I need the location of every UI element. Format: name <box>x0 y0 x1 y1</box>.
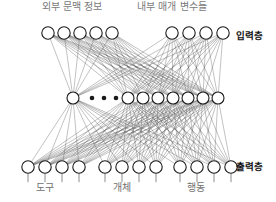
output-node-1 <box>39 161 51 173</box>
output-group-label-object: 개체 <box>113 182 131 193</box>
input-node-0 <box>42 27 54 39</box>
hidden-node-0 <box>67 92 79 104</box>
output-node-5 <box>116 161 128 173</box>
neural-network-diagram: 외부 문맥 정보 내부 매개 변수들 입력층 출력층 도구 개체 행동 <box>0 0 276 202</box>
input-node-3 <box>90 27 102 39</box>
hidden-node-4 <box>167 92 179 104</box>
group-label-external-context: 외부 문맥 정보 <box>42 1 102 12</box>
output-node-8 <box>174 161 186 173</box>
output-node-10 <box>208 161 220 173</box>
output-group-label-tool: 도구 <box>36 182 54 193</box>
ellipsis-dots <box>90 96 119 101</box>
hidden-node-6 <box>197 92 209 104</box>
output-node-7 <box>150 161 162 173</box>
output-node-4 <box>99 161 111 173</box>
output-node-9 <box>191 161 203 173</box>
ellipsis-dot-1 <box>102 96 107 101</box>
input-node-4 <box>106 27 118 39</box>
layer-label-input: 입력층 <box>236 30 263 41</box>
input-node-8 <box>217 27 229 39</box>
output-node-0 <box>22 161 34 173</box>
ellipsis-dot-2 <box>114 96 119 101</box>
input-node-7 <box>200 27 212 39</box>
input-node-1 <box>58 27 70 39</box>
input-node-5 <box>166 27 178 39</box>
hidden-node-1 <box>122 92 134 104</box>
ellipsis-dot-0 <box>90 96 95 101</box>
hidden-node-3 <box>152 92 164 104</box>
input-node-2 <box>74 27 86 39</box>
hidden-node-2 <box>137 92 149 104</box>
input-node-6 <box>183 27 195 39</box>
output-node-6 <box>133 161 145 173</box>
output-node-2 <box>56 161 68 173</box>
hidden-node-5 <box>182 92 194 104</box>
layer-label-output: 출력층 <box>236 161 263 172</box>
output-group-label-action: 행동 <box>187 182 205 193</box>
group-label-internal-params: 내부 매개 변수들 <box>137 1 206 12</box>
hidden-node-7 <box>212 92 224 104</box>
output-node-3 <box>73 161 85 173</box>
network-canvas <box>0 0 276 202</box>
